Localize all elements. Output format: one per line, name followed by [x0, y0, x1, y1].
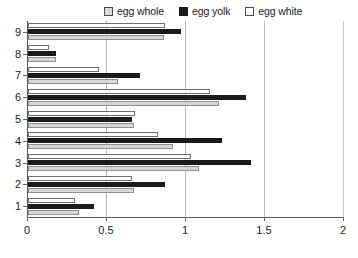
y-tick-6	[23, 97, 27, 98]
y-tick-label-6: 6	[15, 91, 21, 103]
bar-yolk-8	[28, 51, 56, 56]
bar-white-2	[28, 176, 132, 181]
bar-yolk-5	[28, 117, 132, 122]
white-swatch-icon	[245, 7, 254, 16]
y-tick-8	[23, 54, 27, 55]
y-tick-label-5: 5	[15, 113, 21, 125]
legend-item-egg-yolk[interactable]: egg yolk	[179, 5, 230, 17]
y-tick-3	[23, 163, 27, 164]
bar-whole-9	[28, 35, 164, 40]
y-tick-1	[23, 206, 27, 207]
y-tick-label-9: 9	[15, 26, 21, 38]
gridline-1.5	[264, 21, 265, 217]
bar-yolk-3	[28, 160, 251, 165]
plot-area: 00.511.52123456789	[27, 21, 343, 217]
y-tick-4	[23, 141, 27, 142]
bar-white-6	[28, 89, 210, 94]
bar-white-5	[28, 111, 135, 116]
bar-white-8	[28, 45, 49, 50]
gridline-1	[185, 21, 186, 217]
legend-label-egg-yolk: egg yolk	[192, 5, 230, 17]
chart-legend: egg whole egg yolk egg white	[104, 5, 302, 17]
x-tick-2	[343, 217, 344, 221]
y-tick-label-7: 7	[15, 69, 21, 81]
y-tick-2	[23, 184, 27, 185]
bar-whole-7	[28, 79, 118, 84]
bar-whole-3	[28, 166, 199, 171]
bar-white-7	[28, 67, 99, 72]
y-tick-7	[23, 75, 27, 76]
yolk-swatch-icon	[179, 7, 188, 16]
x-tick-label-1: 1	[182, 224, 188, 236]
bar-white-1	[28, 198, 75, 203]
bar-whole-2	[28, 188, 134, 193]
y-tick-label-1: 1	[15, 200, 21, 212]
y-tick-label-3: 3	[15, 157, 21, 169]
bar-yolk-4	[28, 138, 222, 143]
y-tick-label-4: 4	[15, 135, 21, 147]
bar-yolk-9	[28, 29, 181, 34]
bar-yolk-7	[28, 73, 140, 78]
y-tick-5	[23, 119, 27, 120]
x-tick-label-0.5: 0.5	[98, 224, 113, 236]
x-tick-1	[185, 217, 186, 221]
y-tick-label-8: 8	[15, 48, 21, 60]
bar-chart: egg whole egg yolk egg white 00.511.5212…	[0, 0, 358, 258]
x-tick-label-2: 2	[340, 224, 346, 236]
x-tick-label-0: 0	[24, 224, 30, 236]
y-tick-label-2: 2	[15, 178, 21, 190]
bar-whole-6	[28, 101, 219, 106]
bar-white-4	[28, 132, 158, 137]
legend-label-egg-whole: egg whole	[117, 5, 164, 17]
y-tick-9	[23, 32, 27, 33]
bar-yolk-2	[28, 182, 165, 187]
bar-whole-1	[28, 210, 79, 215]
bar-whole-8	[28, 57, 56, 62]
gridline-2	[343, 21, 344, 217]
legend-item-egg-whole[interactable]: egg whole	[104, 5, 164, 17]
bar-white-9	[28, 23, 165, 28]
whole-swatch-icon	[104, 7, 113, 16]
bar-whole-5	[28, 123, 134, 128]
x-tick-label-1.5: 1.5	[256, 224, 271, 236]
bar-white-3	[28, 154, 191, 159]
x-tick-0.5	[106, 217, 107, 221]
bar-whole-4	[28, 144, 173, 149]
x-tick-0	[27, 217, 28, 221]
bar-yolk-6	[28, 95, 246, 100]
x-tick-1.5	[264, 217, 265, 221]
bar-yolk-1	[28, 204, 94, 209]
legend-label-egg-white: egg white	[258, 5, 302, 17]
legend-item-egg-white[interactable]: egg white	[245, 5, 302, 17]
